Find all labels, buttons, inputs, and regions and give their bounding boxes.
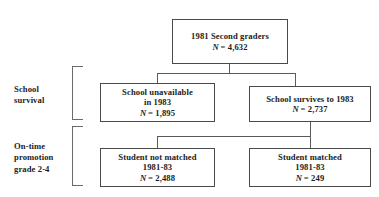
bracket-on-time-promotion [72, 126, 83, 186]
node-student-matched-count: N = 249 [296, 173, 325, 183]
stage-label-on-time-promotion-line-1: On-time [14, 141, 53, 152]
node-school-unavailable-line-1: School unavailable [122, 87, 193, 97]
connector-tier2-bar [157, 73, 295, 74]
stage-label-school-survival-line-2: survival [14, 95, 44, 106]
stage-label-on-time-promotion-line-3: grade 2-4 [14, 164, 53, 175]
n-symbol: N [140, 173, 146, 183]
node-student-not-matched-line-1: Student not matched [118, 152, 196, 162]
connector-tier2-left-drop [157, 73, 158, 83]
n-value: = 1,895 [148, 108, 175, 118]
n-value: = 4,632 [221, 42, 248, 52]
connector-tier3-bar [157, 136, 311, 137]
n-value: = 2,737 [301, 104, 328, 114]
node-student-matched: Student matched 1981-83 N = 249 [249, 148, 371, 187]
connector-tier3-right-drop [310, 136, 311, 148]
connector-tier2-right-drop [295, 73, 296, 86]
node-school-unavailable-line-2: in 1983 [144, 97, 171, 107]
flowchart-diagram: 1981 Second graders N = 4,632 School una… [0, 0, 379, 197]
stage-label-school-survival-line-1: School [14, 84, 44, 95]
node-school-unavailable: School unavailable in 1983 N = 1,895 [100, 83, 215, 122]
n-symbol: N [292, 104, 298, 114]
stage-label-on-time-promotion-line-2: promotion [14, 152, 53, 163]
node-school-survives-count: N = 2,737 [292, 104, 327, 114]
bracket-school-survival [72, 66, 83, 120]
node-student-matched-line-1: Student matched [278, 152, 342, 162]
node-student-not-matched: Student not matched 1981-83 N = 2,488 [100, 148, 215, 187]
n-symbol: N [212, 42, 218, 52]
node-student-not-matched-line-2: 1981-83 [143, 162, 172, 172]
node-cohort-count: N = 4,632 [212, 42, 247, 52]
connector-survives-stem [310, 122, 311, 136]
stage-label-on-time-promotion: On-time promotion grade 2-4 [14, 141, 53, 175]
node-student-matched-line-2: 1981-83 [295, 162, 324, 172]
node-student-not-matched-count: N = 2,488 [140, 173, 175, 183]
stage-label-school-survival: School survival [14, 84, 44, 107]
n-symbol: N [140, 108, 146, 118]
node-cohort: 1981 Second graders N = 4,632 [172, 19, 288, 64]
connector-tier3-left-drop [157, 136, 158, 148]
node-school-survives-line-1: School survives to 1983 [266, 94, 354, 104]
node-school-survives: School survives to 1983 N = 2,737 [249, 86, 371, 122]
n-symbol: N [296, 173, 302, 183]
n-value: = 249 [304, 173, 324, 183]
n-value: = 2,488 [148, 173, 175, 183]
node-cohort-line-1: 1981 Second graders [191, 31, 269, 41]
node-school-unavailable-count: N = 1,895 [140, 108, 175, 118]
